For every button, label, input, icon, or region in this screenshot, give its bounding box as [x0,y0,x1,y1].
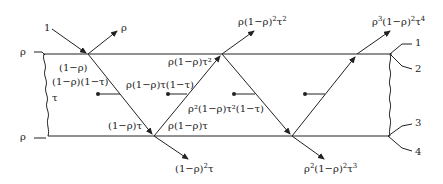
label-top-rho: ρ [20,47,26,57]
label-reflected-first: ρ [121,23,127,33]
callout-line-3 [388,124,412,136]
right-wavy-break [389,54,390,136]
label-reflected-2: ρ(1−ρ)2τ2 [238,17,287,27]
transmitted-ray-2 [292,136,324,159]
internal-ray-4 [292,57,355,136]
absorption-dot-1 [96,92,100,96]
reflected-ray-2 [222,31,254,54]
reflected-ray-3 [357,31,390,54]
label-absorbed-third: ρ²(1−ρ)τ²(1−τ) [188,104,264,114]
label-bottom-rho: ρ [20,132,26,142]
callout-2: 2 [415,64,421,74]
incident-ray [52,29,86,53]
label-reflected-3: ρ3(1−ρ)2τ4 [372,17,425,27]
slab-diagram [0,0,443,184]
reflected-ray-1 [88,31,117,54]
label-absorbed-first: (1−ρ)(1−τ) [52,77,109,87]
label-transmitted-1: (1−ρ)2τ [175,164,213,174]
label-incident: 1 [44,23,50,33]
left-wavy-break [44,54,49,136]
callout-line-2 [390,54,412,69]
label-absorbed-second: ρ(1−ρ)τ(1−τ) [126,80,194,90]
label-arriving-top: ρ(1−ρ)τ² [168,57,212,67]
absorption-dot-4 [303,92,307,96]
callout-4: 4 [415,147,421,157]
label-entry: (1−ρ) [59,63,87,73]
label-transmitted-2: ρ2(1−ρ)2τ3 [304,164,357,174]
callout-line-4 [388,136,412,151]
label-reflected-bottom: ρ(1−ρ)τ [168,121,208,131]
callout-3: 3 [415,118,421,128]
absorption-dot-3 [232,92,236,96]
absorption-dot-2 [166,92,170,96]
callout-1: 1 [415,38,421,48]
callout-line-1 [390,44,412,54]
transmitted-ray-1 [154,136,188,159]
label-arriving-bottom: (1−ρ)τ [108,121,142,131]
label-tau: τ [52,93,58,103]
